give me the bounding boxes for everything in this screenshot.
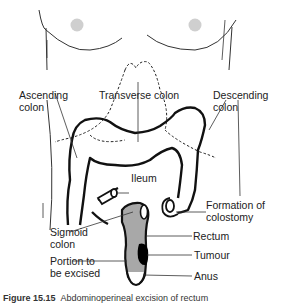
nipple-left — [71, 19, 84, 32]
label-formation-of-colostomy: Formation ofcolostomy — [206, 199, 265, 223]
caption-label: Figure 15.15 — [3, 293, 56, 303]
caption-text: Abdominoperineal excision of rectum — [61, 293, 209, 303]
label-ascending-colon: Ascendingcolon — [19, 89, 68, 113]
figure-caption: Figure 15.15 Abdominoperineal excision o… — [3, 293, 208, 303]
anus-tip — [127, 272, 145, 285]
label-descending-colon: Descendingcolon — [213, 89, 268, 113]
sigmoid-opening — [141, 205, 148, 219]
label-transverse-colon: Transverse colon — [99, 89, 179, 101]
label-rectum: Rectum — [193, 230, 229, 242]
colostomy-stump — [162, 198, 178, 217]
label-ileum: Ileum — [131, 172, 157, 184]
label-sigmoid-colon: Sigmoidcolon — [50, 226, 88, 250]
ribcage-dashed — [55, 62, 216, 158]
label-anus: Anus — [194, 270, 218, 282]
ileum — [98, 189, 117, 204]
label-portion-to-be-excised: Portion tobe excised — [50, 255, 100, 279]
label-tumour: Tumour — [194, 249, 230, 261]
nipple-right — [189, 19, 202, 32]
